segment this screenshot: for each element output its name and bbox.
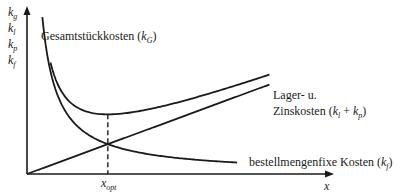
series-label-total: Gesamtstückkosten (kG)	[41, 29, 156, 45]
series-label-holding-line1: Lager- u.	[273, 88, 317, 102]
y-axis-labels: kg kl kp kf	[8, 5, 17, 69]
series-line-holding-costs	[27, 85, 269, 174]
x-axis-arrow-icon	[325, 171, 334, 178]
series-line-total-costs	[50, 63, 269, 115]
svg-text:kl: kl	[8, 21, 16, 37]
svg-text:kg: kg	[8, 5, 17, 21]
y-axis-arrow-icon	[24, 6, 31, 15]
series-label-holding-line2: Zinskosten (kl + kp)	[273, 104, 366, 120]
x-opt-tick-label: xopt	[100, 176, 117, 192]
x-axis-label: x	[323, 179, 330, 193]
series-label-fixed: bestellmengenfixe Kosten (kf)	[249, 155, 393, 171]
svg-text:kf: kf	[8, 53, 17, 69]
cost-chart: kg kl kp kf Gesamtstückkosten (kG) Lager…	[0, 0, 395, 196]
svg-text:kp: kp	[8, 37, 17, 53]
